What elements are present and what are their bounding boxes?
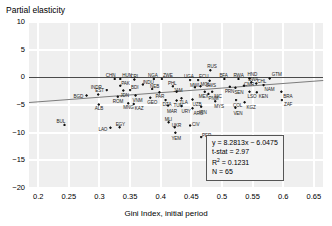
scatter-point-label: UGA (184, 74, 194, 79)
scatter-point-label: LAO (98, 127, 107, 132)
scatter-point-label: RUS (207, 64, 216, 69)
scatter-point-label: COL (233, 103, 242, 108)
scatter-point-label: BGD (74, 94, 84, 99)
scatter-point-label: PAK (121, 81, 130, 86)
scatter-point-label: MLI (165, 117, 172, 122)
title-clip-artifact (150, 0, 164, 4)
scatter-point-label: KGZ (247, 105, 256, 110)
scatter-point-label: KEN (259, 94, 268, 99)
scatter-point-label: CMR (244, 82, 254, 87)
y-tick-label: −10 (12, 128, 25, 137)
y-tick-label: −15 (12, 155, 25, 164)
x-tick-label: 0.35 (123, 192, 138, 201)
scatter-point-label: PHL (168, 81, 177, 86)
scatter-point-label: URY (182, 109, 191, 114)
scatter-point-label: KAZ (135, 106, 144, 111)
y-tick-label: 10 (17, 17, 25, 26)
scatter-point-label: MWI (190, 83, 199, 88)
scatter-point-label: UKR (172, 123, 181, 128)
scatter-point-label: JDN (120, 93, 129, 98)
x-tick-label: 0.2 (33, 192, 43, 201)
scatter-point (235, 99, 238, 102)
y-tick-label: 5 (21, 45, 25, 54)
scatter-point-label: CRI (130, 74, 138, 79)
scatter-point-label: ROM (113, 99, 123, 104)
x-tick-label: 0.5 (217, 192, 227, 201)
x-tick-label: 0.4 (155, 192, 165, 201)
scatter-point-label: GEO (147, 100, 157, 105)
stat-r-squared: R2 = 0.1231 (212, 156, 278, 168)
scatter-point-label: VEN (233, 111, 242, 116)
scatter-point-label: IRN (199, 110, 207, 115)
scatter-point-label: TLA (180, 100, 188, 105)
scatter-point-label: JAM (174, 88, 183, 93)
scatter-point (109, 126, 112, 129)
scatter-point-label: BRA (283, 94, 292, 99)
scatter-point-label: NEB (150, 84, 159, 89)
x-tick-label: 0.3 (94, 192, 104, 201)
scatter-point-label: LSO (248, 94, 257, 99)
regression-stats-box: y = 8.2813x − 6.0475 t-stat = 2.97 R2 = … (206, 135, 284, 181)
scatter-point-label: MNG (123, 105, 133, 110)
scatter-point-label: MEX (199, 94, 209, 99)
scatter-point-label: ZAF (284, 102, 292, 107)
scatter-point (105, 89, 108, 92)
scatter-point-label: BUL (57, 119, 66, 124)
stat-equation: y = 8.2813x − 6.0475 (212, 139, 278, 148)
scatter-point-label: DZA (163, 102, 172, 107)
gridline-horizontal (29, 21, 323, 23)
y-tick-label: −20 (12, 183, 25, 192)
scatter-point-label: ALB (95, 106, 103, 111)
scatter-point-label: MYS (214, 104, 224, 109)
scatter-point-label: MAR (167, 109, 177, 114)
scatter-point-label: PAR (155, 94, 164, 99)
y-tick-label: −5 (16, 100, 25, 109)
stat-tstat: t-stat = 2.97 (212, 148, 278, 157)
x-tick-label: 0.25 (62, 192, 77, 201)
x-tick-label: 0.45 (184, 192, 199, 201)
scatter-point-label: RWA (233, 73, 243, 78)
scatter-point-label: NIC (214, 94, 222, 99)
scatter-point-label: PRN (225, 89, 234, 94)
scatter-point-label: BFA (219, 73, 227, 78)
gridline-horizontal (29, 49, 323, 51)
scatter-point-label: NAM (265, 87, 275, 92)
x-axis-title: Gini Index, initial period (0, 209, 332, 218)
scatter-point-label: NGA (148, 73, 158, 78)
stat-n: N = 65 (212, 168, 278, 177)
scatter-point-label: EGY (116, 122, 125, 127)
zero-reference-line (29, 77, 323, 78)
stat-r-value: = 0.1231 (220, 160, 249, 167)
scatter-point-label: ZWE (163, 73, 173, 78)
scatter-point-label: SWS (206, 83, 216, 88)
scatter-point-label: BDI (131, 85, 138, 90)
chart-figure: Partial elasticity 1050−5−10−15−20 0.20.… (0, 0, 332, 226)
y-tick-label: 0 (21, 72, 25, 81)
scatter-point-label: CHL (257, 79, 266, 84)
scatter-point-label: INDR (91, 85, 102, 90)
scatter-point-label: CHN (106, 73, 116, 78)
x-tick-label: 0.6 (278, 192, 288, 201)
scatter-point-label: SEN (234, 90, 243, 95)
gridline-horizontal (29, 187, 323, 189)
scatter-point-label: ECU (199, 74, 208, 79)
scatter-point-label: VNM (133, 98, 143, 103)
scatter-point-label: CIV (192, 122, 199, 127)
x-tick-label: 0.65 (307, 192, 322, 201)
x-tick-label: 0.55 (245, 192, 260, 201)
y-axis-title: Partial elasticity (6, 5, 65, 15)
scatter-point-label: YEM (171, 136, 181, 141)
scatter-point-label: GTM (272, 72, 282, 77)
